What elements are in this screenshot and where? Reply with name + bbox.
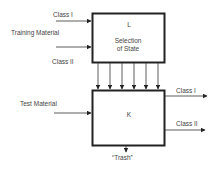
- output-class2-label: Class II: [176, 121, 198, 128]
- test-material-label: Test Material: [20, 101, 57, 108]
- connector-arrows: [98, 63, 158, 89]
- input-class1-label: Class I: [53, 12, 73, 19]
- diagram-canvas: [0, 0, 219, 169]
- box-l-letter: L: [124, 22, 134, 29]
- output-class1-label: Class I: [176, 88, 196, 95]
- box-k-letter: K: [124, 112, 134, 119]
- box-l-line2: of State: [100, 46, 156, 53]
- box-l-line1: Selection: [100, 38, 156, 45]
- trash-label: “Trash”: [112, 155, 133, 162]
- input-class2-label: Class II: [52, 59, 74, 66]
- training-material-label: Training Material: [11, 30, 59, 37]
